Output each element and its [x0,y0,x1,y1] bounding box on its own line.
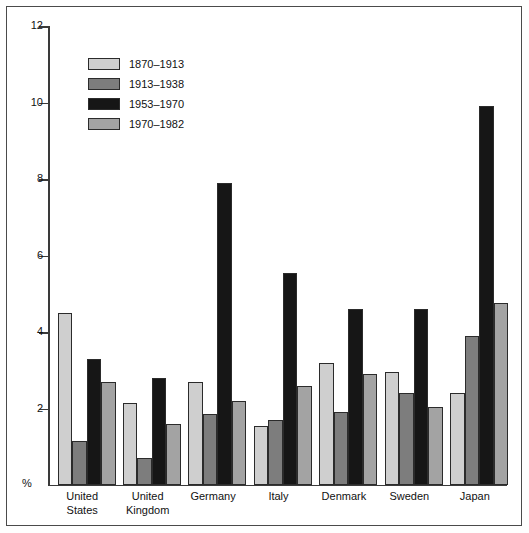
legend-label: 1953–1970 [129,98,184,110]
bar [152,378,167,485]
bar [203,414,218,485]
bar [494,303,509,485]
legend-label: 1913–1938 [129,78,184,90]
x-axis-label-line: United [115,490,180,504]
y-tick-label: 8 [37,171,43,185]
x-axis-label-denmark: Denmark [311,490,376,504]
legend-item-2: 1913–1938 [88,74,238,93]
bar [254,426,269,485]
x-axis-label-line: Sweden [377,490,442,504]
bar [363,374,378,485]
legend-item-1: 1870–1913 [88,54,238,73]
x-axis-label-united-states: UnitedStates [50,490,115,517]
x-axis-label-japan: Japan [442,490,507,504]
x-axis-label-italy: Italy [246,490,311,504]
x-axis-label-line: Kingdom [115,504,180,518]
y-tick-label: 6 [37,248,43,262]
x-axis-label-line: United [50,490,115,504]
bar [58,313,73,485]
x-axis-label-line: Italy [246,490,311,504]
legend-label: 1970–1982 [129,118,184,130]
bar [166,424,181,485]
x-axis-label-united-kingdom: UnitedKingdom [115,490,180,517]
bar-group [311,26,376,485]
bar [123,403,138,485]
legend-label: 1870–1913 [129,58,184,70]
x-axis-label-line: States [50,504,115,518]
x-axis-labels: UnitedStatesUnitedKingdomGermanyItalyDen… [50,490,508,530]
chart-legend: 1870–19131913–19381953–19701970–1982 [88,54,238,134]
bar [399,393,414,485]
bar [385,372,400,485]
y-tick-label: 10 [31,95,43,109]
x-axis-label-germany: Germany [180,490,245,504]
legend-item-3: 1953–1970 [88,94,238,113]
bar [465,336,480,485]
bar [283,273,298,485]
y-tick-label: 12 [31,18,43,32]
x-axis-label-line: Japan [442,490,507,504]
legend-swatch-icon [88,58,120,70]
bar [414,309,429,485]
bar [217,183,232,485]
bar [479,106,494,485]
chart-figure: 24681012 % UnitedStatesUnitedKingdomGerm… [0,0,529,533]
bar-group [246,26,311,485]
y-tick-label: 4 [37,324,43,338]
legend-swatch-icon [88,78,120,90]
bar [334,412,349,485]
bar-group [377,26,442,485]
bar [268,420,283,485]
bar [72,441,87,485]
bar [232,401,247,485]
bar [87,359,102,485]
bar-group [442,26,507,485]
legend-swatch-icon [88,118,120,130]
x-axis-label-line: Denmark [311,490,376,504]
bar [450,393,465,485]
legend-item-4: 1970–1982 [88,114,238,133]
bar [137,458,152,485]
bar [428,407,443,485]
x-axis-label-line: Germany [180,490,245,504]
bar [101,382,116,485]
y-axis-unit-label: % [22,477,32,489]
bar [319,363,334,485]
legend-swatch-icon [88,98,120,110]
bar [297,386,312,485]
bar [348,309,363,485]
y-tick-label: 2 [37,401,43,415]
bar [188,382,203,485]
x-axis-label-sweden: Sweden [377,490,442,504]
